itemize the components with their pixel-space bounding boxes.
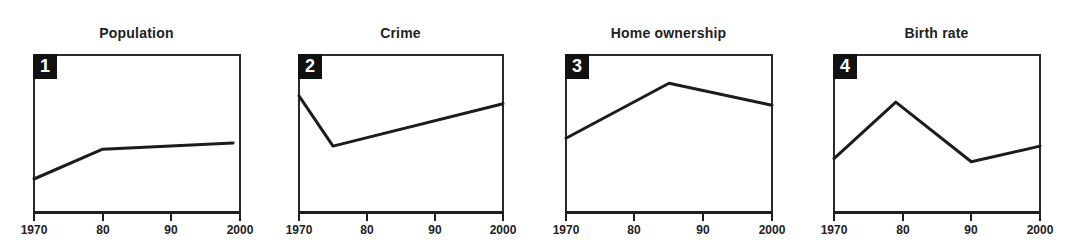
data-line-birth-rate: [834, 102, 1040, 162]
data-line-crime: [299, 96, 503, 146]
data-line-home-ownership: [566, 83, 772, 138]
line-plots: [0, 0, 1070, 251]
data-line-population: [34, 143, 233, 179]
